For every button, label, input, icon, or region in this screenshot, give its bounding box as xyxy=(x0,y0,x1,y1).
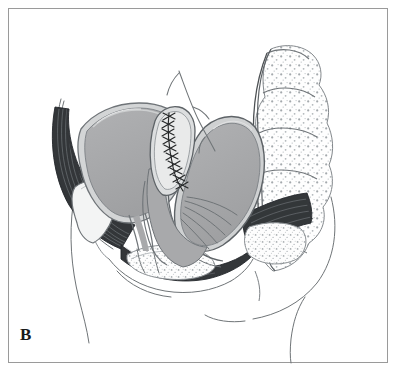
figure-frame xyxy=(8,8,388,363)
coccyx xyxy=(245,223,306,264)
pelvic-anatomy-illustration xyxy=(9,9,389,364)
panel-label: B xyxy=(20,326,31,343)
figure-root: B xyxy=(0,0,397,372)
uterus-cervix-stump xyxy=(150,107,195,196)
